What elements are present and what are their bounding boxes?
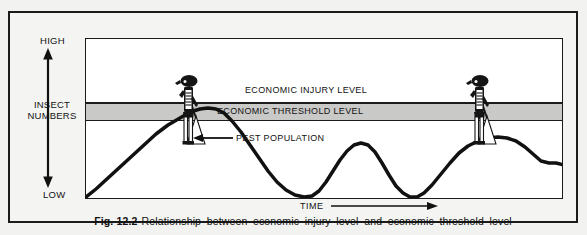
y-axis-label-low: LOW	[43, 189, 66, 200]
y-axis: HIGH INSECT NUMBERS LOW	[24, 35, 84, 203]
pest-population-label: PEST POPULATION	[236, 133, 324, 143]
figure-caption: Fig. 12.2Relationship between economic i…	[18, 215, 587, 227]
figure-number: Fig. 12.2	[94, 215, 137, 227]
figure-root: HIGH INSECT NUMBERS LOW ECONOMIC INJURY …	[0, 0, 587, 235]
figure-outer-border: HIGH INSECT NUMBERS LOW ECONOMIC INJURY …	[8, 11, 578, 223]
y-axis-title: INSECT NUMBERS	[21, 99, 83, 121]
figure-caption-text: Relationship between economic injury lev…	[142, 215, 512, 227]
pest-population-annotation: PEST POPULATION	[193, 133, 324, 143]
right-arrow-icon	[331, 201, 438, 211]
left-arrow-icon	[193, 133, 233, 143]
x-axis: TIME	[300, 201, 438, 211]
plot-area: ECONOMIC INJURY LEVEL ECONOMIC THRESHOLD…	[85, 38, 563, 199]
x-axis-title: TIME	[300, 201, 324, 211]
y-axis-label-high: HIGH	[40, 35, 65, 46]
pesticide-sprayer-person-icon	[465, 72, 499, 150]
